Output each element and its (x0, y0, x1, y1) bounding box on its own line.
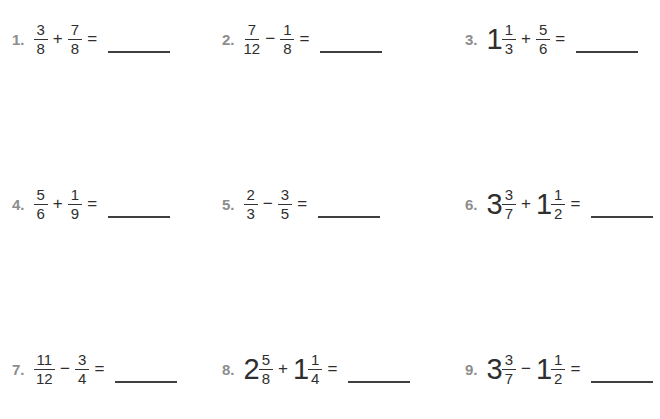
fraction: 23 (244, 187, 258, 222)
fraction: 78 (68, 22, 82, 57)
numerator: 1 (308, 352, 322, 370)
right-term: 114 (293, 352, 322, 387)
left-term: 258 (244, 352, 273, 387)
worksheet-page: 1. 38 + 78 = 2. 712 − 18 = 3. 113 + 56 =… (0, 0, 660, 419)
equals-sign: = (297, 194, 307, 214)
answer-blank[interactable] (576, 31, 638, 53)
numerator: 11 (34, 352, 56, 370)
problem-3: 3. 113 + 56 = (465, 22, 660, 56)
left-term: 23 (244, 187, 258, 222)
denominator: 6 (37, 205, 45, 222)
denominator: 6 (539, 40, 547, 57)
answer-blank[interactable] (591, 361, 653, 383)
denominator: 7 (505, 370, 513, 387)
denominator: 9 (71, 205, 79, 222)
whole-number: 1 (293, 355, 308, 384)
problem-number: 5. (222, 196, 235, 213)
answer-blank[interactable] (108, 31, 170, 53)
problem-8: 8. 258 + 114 = (222, 352, 465, 386)
problem-5: 5. 23 − 35 = (222, 187, 465, 221)
problem-number: 7. (12, 361, 25, 378)
operator: + (278, 359, 288, 379)
problem-1: 1. 38 + 78 = (12, 22, 222, 56)
fraction: 37 (502, 352, 516, 387)
numerator: 3 (502, 352, 516, 370)
denominator: 8 (71, 40, 79, 57)
numerator: 7 (68, 22, 82, 40)
equals-sign: = (555, 29, 565, 49)
left-term: 712 (244, 22, 261, 57)
left-term: 337 (487, 187, 516, 222)
numerator: 3 (75, 352, 89, 370)
numerator: 5 (259, 352, 273, 370)
fraction: 56 (536, 22, 550, 57)
problem-6: 6. 337 + 112 = (465, 187, 660, 221)
equals-sign: = (327, 359, 337, 379)
denominator: 8 (37, 40, 45, 57)
operator: − (521, 359, 531, 379)
problem-9: 9. 337 − 112 = (465, 352, 660, 386)
answer-blank[interactable] (108, 196, 170, 218)
numerator: 1 (280, 22, 294, 40)
numerator: 1 (502, 22, 516, 40)
denominator: 4 (78, 370, 86, 387)
answer-blank[interactable] (115, 361, 177, 383)
left-term: 56 (34, 187, 48, 222)
fraction: 37 (502, 187, 516, 222)
numerator: 5 (536, 22, 550, 40)
problem-number: 6. (465, 196, 478, 213)
fraction: 13 (502, 22, 516, 57)
problem-number: 4. (12, 196, 25, 213)
equals-sign: = (299, 29, 309, 49)
fraction: 14 (308, 352, 322, 387)
numerator: 5 (34, 187, 48, 205)
problem-4: 4. 56 + 19 = (12, 187, 222, 221)
operator: + (53, 29, 63, 49)
operator: + (53, 194, 63, 214)
right-term: 112 (536, 352, 565, 387)
answer-blank[interactable] (591, 196, 653, 218)
operator: − (60, 359, 70, 379)
problem-number: 8. (222, 361, 235, 378)
denominator: 3 (247, 205, 255, 222)
answer-blank[interactable] (320, 31, 382, 53)
equals-sign: = (570, 194, 580, 214)
right-term: 18 (280, 22, 294, 57)
denominator: 8 (262, 370, 270, 387)
problem-number: 9. (465, 361, 478, 378)
right-term: 35 (278, 187, 292, 222)
equals-sign: = (570, 359, 580, 379)
numerator: 3 (278, 187, 292, 205)
numerator: 7 (245, 22, 259, 40)
whole-number: 2 (244, 355, 259, 384)
denominator: 2 (554, 205, 562, 222)
denominator: 5 (281, 205, 289, 222)
left-term: 1112 (34, 352, 56, 387)
numerator: 1 (551, 352, 565, 370)
right-term: 19 (68, 187, 82, 222)
denominator: 3 (505, 40, 513, 57)
whole-number: 1 (536, 190, 551, 219)
fraction: 35 (278, 187, 292, 222)
numerator: 3 (34, 22, 48, 40)
operator: + (521, 29, 531, 49)
right-term: 34 (75, 352, 89, 387)
whole-number: 3 (487, 190, 502, 219)
denominator: 7 (505, 205, 513, 222)
fraction: 19 (68, 187, 82, 222)
denominator: 4 (311, 370, 319, 387)
fraction: 712 (244, 22, 261, 57)
problem-number: 1. (12, 31, 25, 48)
fraction: 38 (34, 22, 48, 57)
fraction: 1112 (34, 352, 56, 387)
operator: − (263, 194, 273, 214)
equals-sign: = (94, 359, 104, 379)
whole-number: 1 (536, 355, 551, 384)
right-term: 56 (536, 22, 550, 57)
fraction: 56 (34, 187, 48, 222)
left-term: 337 (487, 352, 516, 387)
problem-number: 3. (465, 31, 478, 48)
answer-blank[interactable] (318, 196, 380, 218)
answer-blank[interactable] (348, 361, 410, 383)
numerator: 1 (68, 187, 82, 205)
